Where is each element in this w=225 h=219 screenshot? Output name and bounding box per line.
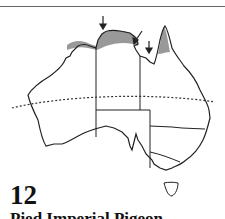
- species-number: 12: [10, 182, 37, 209]
- australia-outline: [28, 26, 210, 170]
- border-nsw-vic: [150, 152, 180, 162]
- arrow-icon: [146, 41, 152, 53]
- arrow-icon: [100, 16, 106, 29]
- tropic-line: [12, 96, 215, 108]
- species-title: Pied Imperial Pigeon: [10, 210, 163, 219]
- border-qld-nsw: [150, 126, 205, 129]
- tasmania-outline: [164, 182, 178, 196]
